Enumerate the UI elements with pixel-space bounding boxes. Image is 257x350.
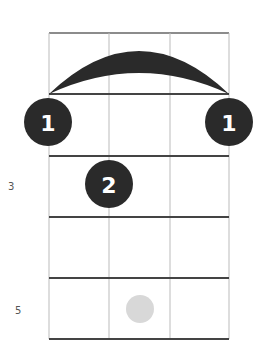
ghost-note [126, 295, 154, 323]
chord-diagram: 1 1 2 3 5 [0, 0, 257, 350]
barre-arc [49, 51, 229, 94]
finger-number: 1 [221, 111, 236, 136]
finger-number: 1 [40, 111, 55, 136]
fret-label-5: 5 [15, 305, 21, 316]
finger-2: 2 [85, 160, 133, 208]
finger-1-left: 1 [24, 98, 72, 146]
fret-label-3: 3 [8, 181, 14, 192]
finger-1-right: 1 [205, 98, 253, 146]
finger-number: 2 [101, 173, 116, 198]
